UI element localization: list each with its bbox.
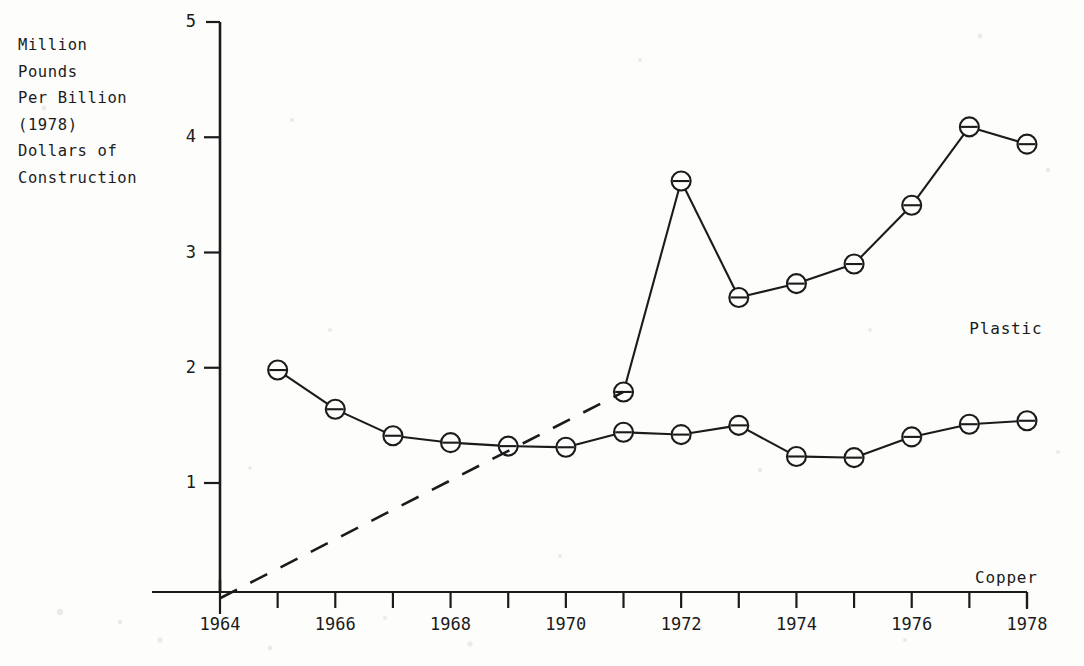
data-point-marker [383,426,402,445]
data-point-marker [1018,411,1037,430]
axes-group [152,22,1027,614]
data-point-marker [787,447,806,466]
series-segment [284,375,328,405]
series-segment [916,133,964,198]
data-point-marker [499,437,518,456]
series-plastic [614,117,1037,401]
series-segment [746,429,790,453]
data-point-marker [902,196,921,215]
data-point-marker [845,255,864,274]
series-label-plastic: Plastic [969,319,1042,338]
series-segment [516,446,558,447]
series-segment [804,267,846,281]
series-segment [804,457,846,458]
series-segment [862,440,905,455]
series-label-copper: Copper [975,568,1038,587]
series-segment [459,443,501,445]
data-point-marker [326,400,345,419]
data-point-marker [556,438,575,457]
data-point-marker [672,425,691,444]
data-point-marker [1018,135,1037,154]
data-point-marker [787,274,806,293]
chart-plot-area [0,0,1084,666]
data-point-marker [845,448,864,467]
series-segment [626,189,679,384]
data-point-marker [729,416,748,435]
series-segment [685,188,736,290]
data-point-marker [441,433,460,452]
data-point-marker [902,427,921,446]
series-segment [689,427,731,434]
series-segment [747,285,789,295]
chart-page: Million Pounds Per Billion (1978) Dollar… [0,0,1084,666]
data-point-marker [960,415,979,434]
series-segment [977,129,1019,142]
series-segment [401,437,443,442]
data-point-marker [729,288,748,307]
series-segment [860,211,906,258]
data-point-marker [268,361,287,380]
series-group [220,117,1037,598]
series-segment [220,392,624,598]
series-plastic-projection [220,392,624,598]
series-segment [343,413,386,433]
series-segment [631,433,673,435]
series-segment [920,426,962,435]
series-copper [268,361,1036,468]
data-point-marker [960,117,979,136]
series-segment [574,434,616,445]
data-point-marker [672,172,691,191]
data-point-marker [614,423,633,442]
series-segment [977,421,1019,423]
